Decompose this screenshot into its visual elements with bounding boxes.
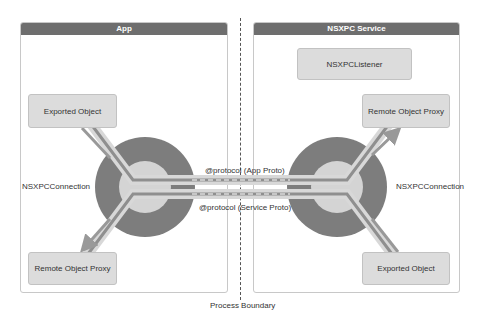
app-connection-hub xyxy=(82,112,240,262)
process-boundary-label: Process Boundary xyxy=(210,301,275,310)
service-protocol-label: @protocol (Service Proto) xyxy=(199,203,291,212)
service-exported-object-label: Exported Object xyxy=(377,264,434,273)
app-connection-label: NSXPCConnection xyxy=(22,182,90,191)
service-exported-object: Exported Object xyxy=(362,252,450,285)
service-remote-proxy-label: Remote Object Proxy xyxy=(368,107,444,116)
service-connection-label: NSXPCConnection xyxy=(396,182,464,191)
app-protocol-label: @protocol (App Proto) xyxy=(205,166,285,175)
app-exported-object: Exported Object xyxy=(28,94,117,128)
nsxpc-listener-label: NSXPCListener xyxy=(326,60,382,69)
service-connection-hub xyxy=(240,112,398,262)
app-remote-object-proxy: Remote Object Proxy xyxy=(28,252,117,285)
app-exported-object-label: Exported Object xyxy=(44,107,101,116)
nsxpc-listener: NSXPCListener xyxy=(297,48,412,80)
service-remote-object-proxy: Remote Object Proxy xyxy=(362,94,450,128)
app-remote-proxy-label: Remote Object Proxy xyxy=(34,264,110,273)
